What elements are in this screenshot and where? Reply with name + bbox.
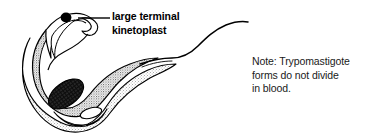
note-line-3: in blood. [252,82,350,96]
kinetoplast-callout-label: large terminal kinetoplast [112,9,179,37]
kinetoplast [61,13,72,23]
figure-container: large terminal kinetoplast Note: Trypoma… [0,0,389,140]
note-line-2: forms do not divide [252,69,350,83]
callout-line-2: kinetoplast [112,23,179,37]
note-text: Note: Trypomastigote forms do not divide… [252,55,350,96]
callout-line-1: large terminal [112,9,179,23]
note-line-1: Note: Trypomastigote [252,55,350,69]
